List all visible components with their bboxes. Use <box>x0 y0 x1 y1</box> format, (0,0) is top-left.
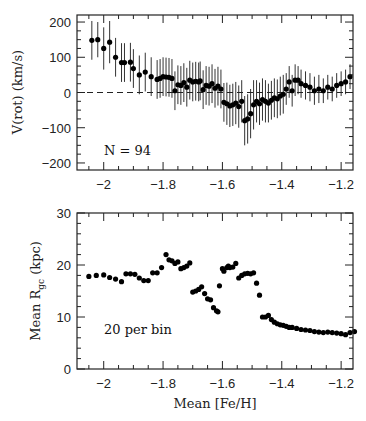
data-point <box>239 99 244 104</box>
y-tick-label: 0 <box>64 362 71 377</box>
data-point <box>101 46 106 51</box>
data-point <box>307 85 312 90</box>
data-point <box>266 313 271 318</box>
data-point <box>199 284 204 289</box>
data-point <box>128 271 133 276</box>
data-point <box>107 40 112 45</box>
data-point <box>312 329 317 334</box>
bottom-y-ticks <box>77 213 353 369</box>
data-point <box>181 80 186 85</box>
data-point <box>89 38 94 43</box>
data-point <box>208 297 213 302</box>
data-point <box>169 76 174 81</box>
figure: −2−1.8−1.6−1.4−1.2 −200−1000100200 V(rot… <box>0 0 366 421</box>
bottom-plot-frame <box>77 213 353 369</box>
data-point <box>123 271 128 276</box>
data-point <box>347 330 352 335</box>
y-tick-label: 0 <box>64 86 71 101</box>
data-point <box>343 79 348 84</box>
top-y-axis-title: V(rot) (km/s) <box>10 50 25 135</box>
data-point <box>119 279 124 284</box>
y-tick-label: 200 <box>49 15 71 30</box>
x-tick-label: −1.4 <box>269 177 295 192</box>
data-point <box>202 291 207 296</box>
data-point <box>281 92 286 97</box>
data-point <box>159 265 164 270</box>
x-tick-label: −1.2 <box>328 177 354 192</box>
data-point <box>172 88 177 93</box>
data-point <box>155 270 160 275</box>
data-point <box>137 275 142 280</box>
y-tick-label: 10 <box>57 310 71 325</box>
data-point <box>113 55 118 60</box>
data-point <box>316 329 321 334</box>
data-point <box>257 101 262 106</box>
top-error-bars <box>92 21 350 145</box>
bottom-x-axis-title: Mean [Fe/H] <box>173 396 256 411</box>
data-point <box>330 330 335 335</box>
data-point <box>325 329 330 334</box>
top-x-tick-labels: −2−1.8−1.6−1.4−1.2 <box>96 177 354 192</box>
data-point <box>343 332 348 337</box>
data-point <box>325 85 330 90</box>
data-point <box>218 86 223 91</box>
top-y-tick-labels: −200−1000100200 <box>42 15 71 171</box>
top-panel: −2−1.8−1.6−1.4−1.2 −200−1000100200 V(rot… <box>10 15 354 192</box>
data-point <box>187 260 192 265</box>
x-tick-label: −1.6 <box>210 376 236 391</box>
data-point <box>287 79 292 84</box>
data-point <box>339 81 344 86</box>
data-point <box>149 74 154 79</box>
y-tick-label: −200 <box>42 156 71 171</box>
x-tick-label: −1.6 <box>210 177 236 192</box>
data-point <box>298 327 303 332</box>
data-point <box>122 60 127 65</box>
data-point <box>143 69 148 74</box>
data-point <box>284 86 289 91</box>
bottom-x-tick-labels: −2−1.8−1.6−1.4−1.2 <box>96 376 354 391</box>
data-point <box>128 60 133 65</box>
data-point <box>163 252 168 257</box>
data-point <box>217 283 222 288</box>
bottom-y-axis-title: Mean Rgc (kpc) <box>28 241 46 341</box>
data-point <box>94 273 99 278</box>
data-point <box>334 331 339 336</box>
data-point <box>303 327 308 332</box>
bottom-y-tick-labels: 0102030 <box>57 206 71 377</box>
data-point <box>339 331 344 336</box>
data-point <box>290 325 295 330</box>
x-tick-label: −1.8 <box>150 376 176 391</box>
data-point <box>101 272 106 277</box>
x-tick-label: −1.4 <box>269 376 295 391</box>
data-point <box>131 66 136 71</box>
data-point <box>248 111 253 116</box>
data-point <box>298 81 303 86</box>
y-tick-label: 20 <box>57 258 71 273</box>
data-point <box>141 278 146 283</box>
bottom-panel: −2−1.8−1.6−1.4−1.2 0102030 Mean Rgc (kpc… <box>28 206 357 411</box>
bin-size-annotation: 20 per bin <box>104 322 173 337</box>
x-tick-label: −2 <box>96 177 111 192</box>
data-point <box>245 116 250 121</box>
data-point <box>137 72 142 77</box>
data-point <box>330 86 335 91</box>
data-point <box>215 309 220 314</box>
data-point <box>303 83 308 88</box>
y-tick-label: −100 <box>42 121 71 136</box>
x-tick-label: −1.2 <box>328 376 354 391</box>
data-point <box>254 281 259 286</box>
data-point <box>146 278 151 283</box>
data-point <box>113 276 118 281</box>
data-point <box>175 259 180 264</box>
data-point <box>316 86 321 91</box>
data-point <box>290 88 295 93</box>
sample-size-annotation: N = 94 <box>104 143 151 158</box>
data-point <box>312 88 317 93</box>
data-point <box>107 275 112 280</box>
data-point <box>236 104 241 109</box>
data-point <box>132 272 137 277</box>
data-point <box>307 328 312 333</box>
data-point <box>184 85 189 90</box>
data-point <box>294 326 299 331</box>
bottom-x-ticks <box>89 213 341 369</box>
